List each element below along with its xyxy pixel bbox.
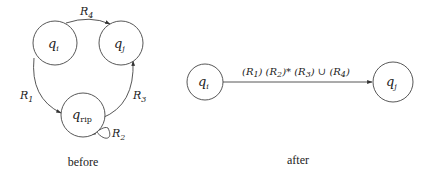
- state-qi: qi: [33, 21, 77, 65]
- edge-label-r2: R2: [111, 127, 125, 142]
- edge-label-combined: (R1) (R2)* (R3) ∪ (R4): [242, 66, 350, 79]
- state-qi-after: qi: [187, 64, 223, 100]
- after-diagram: (R1) (R2)* (R3) ∪ (R4) qi qj after: [187, 62, 413, 167]
- state-qj: qj: [99, 21, 143, 65]
- state-qrip: qrip: [61, 93, 105, 137]
- caption-before: before: [68, 155, 99, 169]
- edge-r1: [34, 58, 61, 113]
- edge-label-r3: R3: [132, 89, 146, 104]
- edge-label-r1: R1: [19, 89, 33, 104]
- edge-r3: [102, 61, 133, 118]
- edge-label-r4: R4: [79, 5, 93, 20]
- state-qj-after: qj: [373, 62, 413, 102]
- caption-after: after: [287, 153, 309, 167]
- before-diagram: R4 R1 R3 R2 qi qj qrip before: [19, 5, 146, 169]
- state-elimination-diagram: R4 R1 R3 R2 qi qj qrip before (R1) (R2)*…: [0, 0, 431, 173]
